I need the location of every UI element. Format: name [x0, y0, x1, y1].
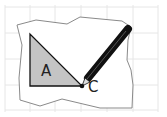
diagram-canvas: A C [0, 0, 167, 117]
point-c [80, 84, 85, 89]
triangle-label: A [41, 62, 52, 80]
point-label: C [88, 78, 98, 96]
